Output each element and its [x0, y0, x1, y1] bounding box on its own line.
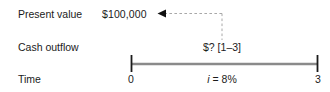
diagram-line-overlay	[0, 0, 330, 92]
arrowhead-left-icon	[158, 10, 167, 18]
cash-flow-timeline-diagram: Present value Cash outflow Time $100,000…	[0, 0, 330, 92]
